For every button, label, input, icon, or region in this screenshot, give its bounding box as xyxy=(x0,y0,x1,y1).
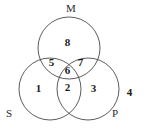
region-label-3: 3 xyxy=(89,83,98,94)
venn-diagram: M S P 1 2 3 4 5 6 7 8 xyxy=(0,0,147,129)
region-label-8: 8 xyxy=(63,37,72,48)
region-label-5: 5 xyxy=(47,57,56,68)
region-label-1: 1 xyxy=(34,83,43,94)
set-label-p: P xyxy=(112,108,118,119)
venn-circles-group xyxy=(0,0,147,129)
region-label-7: 7 xyxy=(76,57,85,68)
set-label-m: M xyxy=(66,3,76,14)
region-label-4: 4 xyxy=(125,87,134,98)
region-label-2: 2 xyxy=(63,82,72,93)
region-label-6: 6 xyxy=(63,65,72,76)
set-label-s: S xyxy=(6,108,12,119)
